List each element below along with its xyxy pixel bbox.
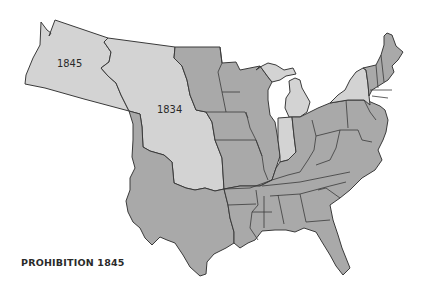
- region-new-york: [330, 68, 370, 105]
- map-caption: PROHIBITION 1845: [21, 257, 125, 268]
- region-new-england: [363, 33, 403, 96]
- region-label-1834: 1834: [157, 103, 182, 116]
- prohibition-map: 1845 1834: [0, 0, 426, 295]
- region-label-1845: 1845: [57, 57, 82, 70]
- region-michigan: [285, 78, 310, 117]
